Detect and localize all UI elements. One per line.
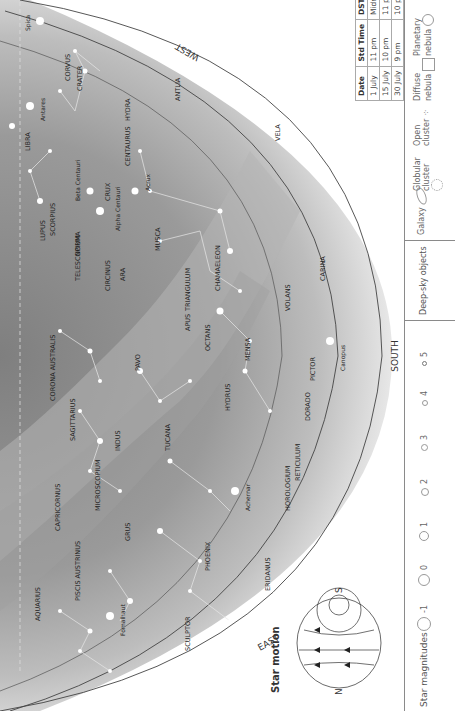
magnitudes-label: Star magnitudes bbox=[419, 632, 429, 707]
table-cell: 15 July bbox=[380, 66, 392, 100]
legend-strip: Star magnitudes -1 0 1 2 3 4 5 Deep-sky … bbox=[404, 0, 455, 711]
svg-text:GRUS: GRUS bbox=[124, 523, 132, 541]
magnitude-item: 0 bbox=[418, 565, 430, 586]
svg-text:Fomalhaut: Fomalhaut bbox=[119, 604, 126, 636]
globular-cluster-legend: Globular cluster bbox=[413, 151, 443, 191]
planetary-nebula-legend: Planetary nebula bbox=[413, 2, 434, 56]
svg-text:Beta Centauri: Beta Centauri bbox=[74, 159, 81, 201]
star-fomalhaut bbox=[106, 612, 114, 620]
svg-text:SAGITTARIUS: SAGITTARIUS bbox=[69, 398, 77, 441]
svg-text:CORONA AUSTRALIS: CORONA AUSTRALIS bbox=[49, 335, 57, 401]
diffuse-nebula-icon bbox=[422, 58, 435, 71]
table-cell: 1 July bbox=[368, 66, 380, 100]
svg-text:SCORPIUS: SCORPIUS bbox=[49, 203, 57, 236]
star-alpha-centauri bbox=[96, 207, 104, 215]
svg-text:TRIANGULUM: TRIANGULUM bbox=[184, 268, 192, 312]
svg-text:Antares: Antares bbox=[39, 98, 46, 121]
table-row: 1 July 11 pm Midnight bbox=[368, 0, 380, 101]
magnitude-item: 2 bbox=[420, 479, 429, 496]
star-spica bbox=[36, 17, 44, 25]
diffuse-nebula-legend: Diffuse nebula bbox=[413, 57, 435, 101]
star-motion-s: S bbox=[334, 587, 344, 593]
star-motion-title: Star motion bbox=[270, 626, 281, 693]
table-cell: Midnight bbox=[368, 0, 380, 20]
table-header: Date bbox=[356, 66, 368, 100]
south-label: SOUTH bbox=[390, 340, 400, 372]
table-cell: 9 pm bbox=[392, 20, 404, 67]
table-cell: 10 pm bbox=[392, 0, 404, 20]
svg-text:CARINA: CARINA bbox=[319, 256, 327, 281]
star-motion-diagram: Star motion N S bbox=[270, 585, 400, 705]
svg-text:Spica: Spica bbox=[24, 14, 32, 31]
svg-text:PAVO: PAVO bbox=[134, 354, 142, 371]
svg-text:MENSA: MENSA bbox=[244, 337, 252, 361]
svg-text:Canopus: Canopus bbox=[339, 345, 347, 371]
time-table: Date Std Time DST 1 July 11 pm Midnight … bbox=[355, 0, 404, 101]
svg-text:VOLANS: VOLANS bbox=[284, 284, 292, 311]
svg-text:SCULPTOR: SCULPTOR bbox=[184, 616, 192, 651]
svg-text:CENTAURUS: CENTAURUS bbox=[124, 126, 132, 166]
svg-text:HYDRUS: HYDRUS bbox=[224, 384, 232, 411]
svg-text:AQUARIUS: AQUARIUS bbox=[34, 587, 42, 621]
svg-text:PICTOR: PICTOR bbox=[309, 357, 317, 381]
svg-text:CORVUS: CORVUS bbox=[64, 54, 72, 81]
table-cell: 30 July bbox=[392, 66, 404, 100]
svg-text:CHAMAELEON: CHAMAELEON bbox=[214, 245, 222, 291]
svg-text:Alpha Centauri: Alpha Centauri bbox=[114, 186, 122, 231]
svg-text:RETICULUM: RETICULUM bbox=[294, 444, 302, 481]
svg-text:LIBRA: LIBRA bbox=[24, 132, 32, 151]
star-acrux bbox=[132, 188, 139, 195]
planetary-nebula-icon bbox=[422, 14, 434, 26]
svg-text:ANTLIA: ANTLIA bbox=[174, 77, 182, 101]
svg-text:PISCIS AUSTRINUS: PISCIS AUSTRINUS bbox=[74, 541, 82, 601]
magnitude-item: 5 bbox=[420, 352, 429, 366]
svg-text:VELA: VELA bbox=[274, 124, 282, 141]
svg-text:HYDRA: HYDRA bbox=[124, 98, 132, 121]
table-row: 30 July 9 pm 10 pm bbox=[392, 0, 404, 101]
svg-text:CRUX: CRUX bbox=[104, 182, 112, 201]
open-cluster-icon: ⁘ bbox=[422, 109, 431, 117]
svg-text:TELESCOPIUM: TELESCOPIUM bbox=[74, 235, 82, 282]
svg-text:DORADO: DORADO bbox=[304, 392, 312, 421]
svg-text:CRATER: CRATER bbox=[76, 65, 84, 91]
table-cell: 11 pm bbox=[380, 0, 392, 20]
star-canopus bbox=[326, 337, 334, 345]
svg-text:MUSCA: MUSCA bbox=[154, 227, 162, 251]
svg-text:LUPUS: LUPUS bbox=[39, 220, 47, 241]
svg-text:INDUS: INDUS bbox=[114, 430, 122, 451]
svg-text:TUCANA: TUCANA bbox=[164, 423, 172, 452]
star-antares bbox=[26, 102, 34, 110]
west-label: WEST bbox=[173, 41, 201, 63]
svg-text:ARA: ARA bbox=[119, 267, 127, 281]
magnitude-item: 3 bbox=[420, 435, 429, 451]
magnitude-item: -1 bbox=[417, 605, 431, 631]
svg-text:OCTANS: OCTANS bbox=[204, 324, 212, 351]
globular-cluster-icon bbox=[431, 179, 443, 191]
table-cell: 10 pm bbox=[380, 20, 392, 67]
svg-text:CAPRICORNUS: CAPRICORNUS bbox=[54, 484, 62, 531]
magnitude-item: 1 bbox=[419, 522, 429, 541]
svg-text:CIRCINUS: CIRCINUS bbox=[104, 260, 112, 291]
star-motion-n: N bbox=[334, 688, 344, 695]
svg-text:APUS: APUS bbox=[184, 314, 192, 331]
table-header: Std Time bbox=[356, 20, 368, 67]
deep-sky-label: Deep-sky objects bbox=[419, 246, 428, 315]
star-achernar bbox=[231, 487, 239, 495]
table-row: 15 July 10 pm 11 pm bbox=[380, 0, 392, 101]
open-cluster-legend: Open cluster ⁘ bbox=[413, 106, 431, 146]
star-beta-centauri bbox=[87, 188, 94, 195]
svg-text:PHOENIX: PHOENIX bbox=[204, 541, 212, 571]
magnitude-item: 4 bbox=[420, 391, 429, 406]
svg-text:Achernar: Achernar bbox=[244, 483, 251, 511]
table-header: DST bbox=[356, 0, 368, 20]
svg-text:HOROLOGIUM: HOROLOGIUM bbox=[284, 466, 292, 511]
svg-text:Acrux: Acrux bbox=[144, 173, 151, 191]
table-cell: 11 pm bbox=[368, 20, 380, 67]
svg-text:MICROSCOPIUM: MICROSCOPIUM bbox=[94, 459, 102, 511]
galaxy-legend: Galaxy bbox=[417, 187, 426, 235]
